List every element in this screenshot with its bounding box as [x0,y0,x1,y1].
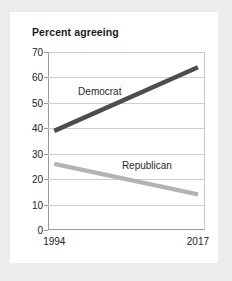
y-tick-label: 10 [32,199,43,210]
x-tick-label: 2017 [187,236,209,247]
y-tick-label: 20 [32,174,43,185]
series-lines [48,52,205,230]
chart-figure: Percent agreeing 010203040506070 Democra… [0,0,232,281]
series-label-republican: Republican [122,160,172,171]
y-tick-label: 60 [32,72,43,83]
plot-area: DemocratRepublican [48,52,205,230]
y-tick-label: 40 [32,123,43,134]
y-tick-mark [44,230,48,231]
series-label-democrat: Democrat [78,86,121,97]
y-tick-label: 50 [32,97,43,108]
series-line-democrat [54,67,198,131]
y-tick-label: 0 [37,225,43,236]
x-axis-labels: 19942017 [48,234,205,250]
x-tick-label: 1994 [43,236,65,247]
chart-title: Percent agreeing [32,26,119,38]
y-tick-label: 70 [32,47,43,58]
y-tick-label: 30 [32,148,43,159]
y-axis-labels: 010203040506070 [10,52,43,230]
chart-card: Percent agreeing 010203040506070 Democra… [10,12,218,263]
